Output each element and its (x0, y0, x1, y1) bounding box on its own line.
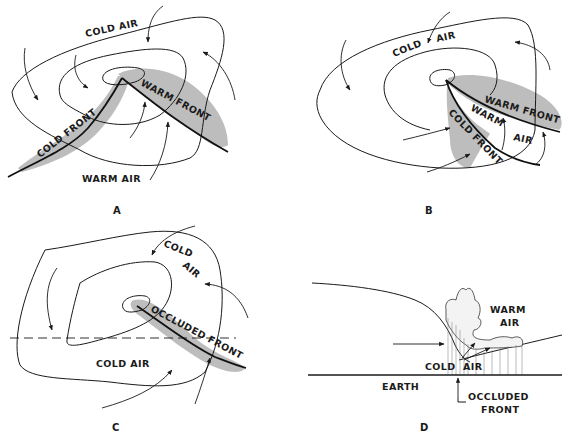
occlusion-diagram: COLD AIR COLD FRONT WARM FRONT WARM AIR … (0, 0, 569, 436)
panel-b: COLD AIR WARM FRONT WARM AIR COLD FRONT … (317, 12, 562, 216)
panel-c-cold-air-bottom-label: COLD AIR (96, 358, 150, 369)
panel-a-wind-arrow (24, 48, 38, 100)
panel-a-wind-arrow (150, 122, 168, 180)
panel-b-cold-air-label-2: AIR (435, 29, 457, 44)
panel-b-cold-air-label-1: COLD (391, 37, 423, 59)
panel-a-wind-arrow (75, 55, 88, 88)
panel-a: COLD AIR COLD FRONT WARM FRONT WARM AIR … (8, 6, 235, 216)
panel-c-cold-air-top-label-2: AIR (181, 259, 203, 280)
panel-d: WARM AIR COLD AIR EARTH OCCLUDED FRONT D (308, 283, 562, 433)
panel-b-wind-arrow (515, 42, 550, 70)
panel-a-warm-front-shading (118, 69, 228, 147)
panel-d-label: D (420, 422, 428, 433)
panel-c-label: C (112, 422, 119, 433)
panel-c-wind-arrow (47, 268, 57, 330)
panel-b-isobar-middle-2 (385, 95, 430, 130)
panel-d-occluded-front-label-2: FRONT (481, 404, 519, 415)
panel-b-label: B (425, 205, 433, 216)
panel-d-cold-front-surface (312, 283, 470, 362)
panel-a-label: A (113, 205, 121, 216)
panel-a-cold-air-label: COLD AIR (84, 17, 139, 39)
panel-a-warm-air-label: WARM AIR (82, 173, 141, 184)
panel-a-wind-arrow (203, 52, 235, 100)
panel-c-wind-arrow (102, 370, 172, 408)
panel-d-warm-air-label-2: AIR (500, 317, 520, 328)
panel-b-wind-arrow (341, 40, 350, 90)
panel-c-cold-air-top-label-1: COLD (162, 238, 194, 260)
panel-c-wind-arrow (195, 358, 210, 404)
panel-d-cold-air-label: COLD AIR (425, 361, 483, 372)
panel-d-warm-air-label-1: WARM (490, 304, 526, 315)
panel-d-occluded-front-label-1: OCCLUDED (468, 391, 529, 402)
panel-c-wind-arrow (205, 284, 248, 318)
panel-a-wind-arrow (130, 102, 145, 138)
panel-d-pointer-leader (458, 398, 466, 402)
panel-d-earth-label: EARTH (382, 381, 419, 392)
panel-c: COLD AIR OCCLUDED FRONT COLD AIR C (10, 226, 248, 433)
panel-b-wind-arrow (403, 128, 450, 140)
